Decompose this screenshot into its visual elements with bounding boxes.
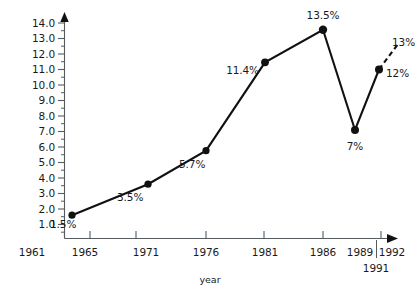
data-label-1981: 11.4% [226, 64, 259, 76]
x-tick-label: 1971 [133, 246, 159, 258]
data-point-1991 [375, 66, 383, 74]
y-tick-label: 3.0 [39, 187, 55, 199]
x-tick-label: 1965 [72, 246, 98, 258]
y-tick-label: 12.0 [32, 48, 55, 60]
x-tick-label: 1986 [310, 246, 337, 258]
data-point-1971 [144, 181, 151, 188]
x-tick-label: 1992 [379, 246, 405, 258]
data-point-1976 [202, 147, 209, 154]
y-tick-label: 9.0 [39, 94, 55, 106]
y-tick-label: 6.0 [39, 141, 55, 153]
data-label-1986: 13.5% [307, 9, 340, 21]
x-axis-title: year [199, 274, 220, 285]
data-point-labels: 1.5% 3.5% 5.7% 11.4% 13.5% 7% 12% 13% [50, 9, 415, 230]
chart-canvas: 1.0 2.0 3.0 4.0 5.0 6.0 7.0 8.0 9.0 10.0… [0, 0, 417, 296]
data-label-1976: 5.7% [179, 158, 205, 170]
y-tick-label: 14.0 [32, 17, 55, 29]
y-tick-label: 7.0 [39, 125, 55, 137]
data-label-projection-1992: 13% [392, 36, 415, 48]
y-tick-label: 2.0 [39, 203, 55, 215]
x-tick-label: 1976 [193, 246, 220, 258]
y-tick-label: 5.0 [39, 156, 55, 168]
y-axis-tick-labels: 1.0 2.0 3.0 4.0 5.0 6.0 7.0 8.0 9.0 10.0… [32, 17, 55, 231]
y-tick-label: 10.0 [32, 79, 55, 91]
x-axis [65, 231, 399, 243]
data-label-1961: 1.5% [50, 218, 76, 230]
x-tick-label: 1989 [347, 246, 373, 258]
data-line-percent [72, 30, 379, 215]
x-tick-label-offset-1991: 1991 [363, 262, 389, 274]
x-axis-arrow-icon [387, 234, 398, 243]
data-point-1981 [261, 58, 269, 66]
data-label-1989: 7% [347, 140, 364, 152]
data-point-1986 [319, 26, 327, 34]
y-axis-arrow-icon [60, 12, 68, 22]
y-tick-label: 11.0 [32, 63, 55, 75]
y-tick-label: 13.0 [32, 32, 55, 44]
x-axis-ticks [90, 231, 381, 239]
x-tick-label: 1981 [252, 246, 278, 258]
line-chart-figure: 1.0 2.0 3.0 4.0 5.0 6.0 7.0 8.0 9.0 10.0… [0, 0, 417, 296]
data-label-1991: 12% [386, 67, 409, 79]
y-tick-label: 4.0 [39, 172, 55, 184]
y-tick-label: 8.0 [39, 110, 55, 122]
data-point-1989 [351, 126, 359, 134]
x-axis-tick-labels: 1961 1965 1971 1976 1981 1986 1989 1992 [19, 246, 405, 258]
x-tick-label: 1961 [19, 246, 45, 258]
data-label-1971: 3.5% [117, 191, 143, 203]
